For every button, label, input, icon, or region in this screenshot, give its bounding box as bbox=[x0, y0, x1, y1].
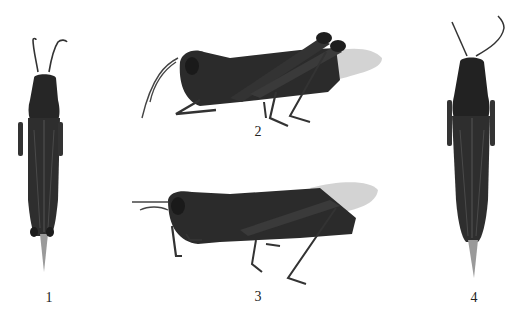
panel-label-3: 3 bbox=[248, 289, 268, 305]
specimen-panel-2: 2 bbox=[130, 10, 390, 160]
panel-label-4: 4 bbox=[464, 290, 484, 306]
grasshopper-dorsal-image-4 bbox=[420, 0, 521, 321]
panel-label-1: 1 bbox=[39, 290, 59, 306]
specimen-panel-3: 3 bbox=[120, 160, 390, 321]
grasshopper-dorsal-image-1 bbox=[0, 0, 130, 321]
panel-label-2: 2 bbox=[248, 124, 268, 140]
specimen-panel-1: 1 bbox=[0, 0, 130, 321]
specimen-panel-4: 4 bbox=[420, 0, 521, 321]
